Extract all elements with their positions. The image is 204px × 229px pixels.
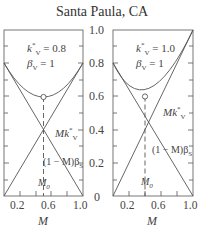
right-oneminus-line — [113, 63, 193, 196]
right-mk-text: Mk — [163, 106, 177, 118]
left-x-axis-label: M — [38, 214, 48, 229]
y-tick-0.2: 0.2 — [89, 156, 104, 171]
left-beta-annotation: βV = 1 — [27, 57, 55, 72]
left-mk-text: Mk — [55, 127, 69, 139]
right-x-tick-1.0: 1.0 — [183, 199, 197, 211]
right-m0-label: M0 — [141, 176, 153, 190]
left-x-tick-0.6: 0.6 — [41, 199, 55, 211]
left-k-annotation: k*V = 0.8 — [27, 41, 66, 57]
y-tick-0.8: 0.8 — [89, 56, 104, 71]
right-mk-label: Mk*V — [163, 105, 186, 121]
left-oneminus-text: (1 − M)β — [43, 156, 79, 167]
y-tick-0.6: 0.6 — [89, 89, 104, 104]
right-beta-annotation: βV = 1 — [136, 57, 164, 72]
right-beta-value: = 1 — [149, 57, 163, 69]
right-k-value: = 1.0 — [152, 42, 175, 54]
left-beta-value: = 1 — [40, 57, 54, 69]
left-oneminus-label: (1 − M)βS — [43, 156, 83, 170]
y-tick-0.4: 0.4 — [89, 123, 104, 138]
right-x-tick-0.6: 0.6 — [151, 199, 165, 211]
right-x-axis-label: M — [147, 214, 157, 229]
right-k-annotation: k*V = 1.0 — [136, 41, 175, 57]
y-tick-0: 0 — [94, 190, 100, 205]
left-k-value: = 0.8 — [43, 42, 66, 54]
right-x-tick-0.2: 0.2 — [120, 199, 134, 211]
y-tick-1.0: 1.0 — [89, 23, 104, 38]
left-m0-label: M0 — [38, 177, 50, 191]
right-oneminus-label: (1 − M)βS — [152, 144, 192, 158]
right-oneminus-text: (1 − M)β — [152, 144, 188, 155]
left-x-tick-0.2: 0.2 — [10, 199, 24, 211]
right-min-marker — [142, 94, 147, 99]
left-mk-label: Mk*V — [55, 126, 78, 142]
left-min-marker — [41, 94, 46, 99]
left-x-tick-1.0: 1.0 — [73, 199, 87, 211]
